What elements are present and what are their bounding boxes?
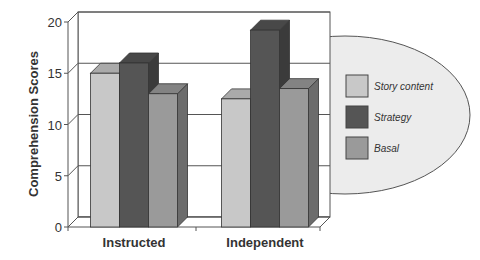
legend-swatch bbox=[346, 75, 368, 97]
bar-basal-independent bbox=[280, 79, 319, 227]
y-tick-label: 15 bbox=[48, 66, 62, 81]
bar-side bbox=[309, 79, 319, 227]
bar-front bbox=[222, 99, 251, 227]
legend-label: Story content bbox=[374, 81, 434, 92]
legend-swatch bbox=[346, 137, 368, 159]
bar-front bbox=[280, 89, 309, 227]
bar-basal-instructed bbox=[149, 84, 188, 227]
bar-chart: 05101520Comprehension ScoresInstructedIn… bbox=[0, 0, 480, 260]
y-tick-label: 5 bbox=[55, 169, 62, 184]
bar-front bbox=[91, 73, 120, 227]
bar-front bbox=[149, 94, 178, 227]
y-axis-label: Comprehension Scores bbox=[26, 51, 41, 197]
legend-swatch bbox=[346, 106, 368, 128]
y-tick-label: 0 bbox=[55, 220, 62, 235]
y-tick-label: 20 bbox=[48, 15, 62, 30]
x-category-label: Independent bbox=[226, 235, 304, 250]
y-tick-label: 10 bbox=[48, 118, 62, 133]
legend-label: Strategy bbox=[374, 112, 412, 123]
bar-front bbox=[251, 30, 280, 227]
bar-front bbox=[120, 63, 149, 227]
bar-side bbox=[178, 84, 188, 227]
x-category-label: Instructed bbox=[103, 235, 166, 250]
legend-label: Basal bbox=[374, 143, 400, 154]
